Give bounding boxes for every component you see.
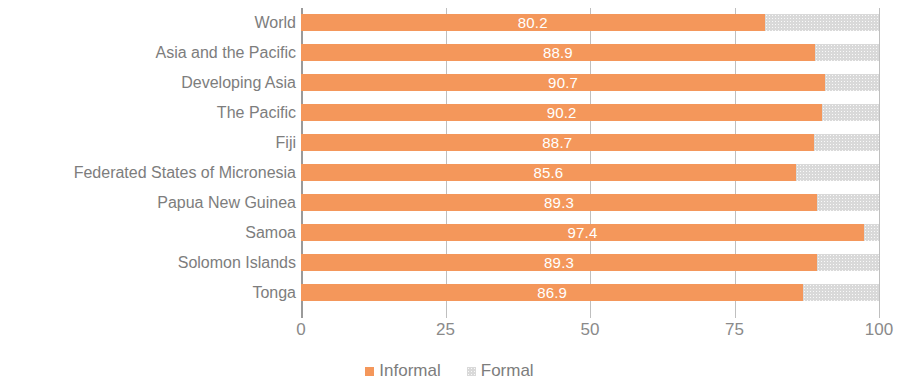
bar-row[interactable]: 90.2 — [301, 104, 879, 121]
bar-row[interactable]: 88.7 — [301, 134, 879, 151]
bar-segment-formal[interactable] — [815, 44, 879, 61]
x-tick-label: 100 — [865, 318, 893, 342]
category-label: Samoa — [6, 224, 296, 241]
category-label: Federated States of Micronesia — [6, 164, 296, 181]
bar-segment-formal[interactable] — [825, 74, 879, 91]
bar-segment-informal[interactable] — [301, 134, 814, 151]
bar-segment-formal[interactable] — [796, 164, 879, 181]
bar-row[interactable]: 86.9 — [301, 284, 879, 301]
bar-segment-formal[interactable] — [765, 14, 879, 31]
bar-segment-informal[interactable] — [301, 164, 796, 181]
category-axis-labels: WorldAsia and the PacificDeveloping Asia… — [0, 8, 296, 318]
bar-segment-informal[interactable] — [301, 284, 803, 301]
bar-segment-informal[interactable] — [301, 44, 815, 61]
plot-area: 80.288.990.790.288.785.689.397.489.386.9 — [301, 8, 879, 318]
chart-legend: InformalFormal — [0, 358, 899, 384]
category-label: The Pacific — [6, 104, 296, 121]
bar-segment-informal[interactable] — [301, 224, 864, 241]
stacked-bar-chart: WorldAsia and the PacificDeveloping Asia… — [0, 0, 899, 385]
bar-row[interactable]: 90.7 — [301, 74, 879, 91]
x-tick-label: 25 — [436, 318, 455, 342]
legend-swatch-icon — [365, 367, 374, 376]
bar-segment-formal[interactable] — [822, 104, 879, 121]
legend-label: Informal — [379, 361, 440, 381]
bar-segment-informal[interactable] — [301, 14, 765, 31]
bar-row[interactable]: 80.2 — [301, 14, 879, 31]
bar-row[interactable]: 89.3 — [301, 194, 879, 211]
bar-row[interactable]: 89.3 — [301, 254, 879, 271]
x-tick-label: 50 — [581, 318, 600, 342]
bar-segment-informal[interactable] — [301, 194, 817, 211]
legend-label: Formal — [481, 361, 534, 381]
x-tick-label: 0 — [296, 318, 305, 342]
bar-segment-formal[interactable] — [817, 194, 879, 211]
bar-row[interactable]: 97.4 — [301, 224, 879, 241]
legend-item[interactable]: Formal — [467, 361, 534, 381]
value-axis-ticks: 0255075100 — [301, 318, 879, 344]
bar-segment-informal[interactable] — [301, 254, 817, 271]
legend-item[interactable]: Informal — [365, 361, 440, 381]
bar-segment-informal[interactable] — [301, 104, 822, 121]
bar-row[interactable]: 85.6 — [301, 164, 879, 181]
category-label: Solomon Islands — [6, 254, 296, 271]
x-tick-label: 75 — [725, 318, 744, 342]
bar-segment-formal[interactable] — [803, 284, 879, 301]
bar-segment-formal[interactable] — [817, 254, 879, 271]
category-label: Fiji — [6, 134, 296, 151]
legend-swatch-icon — [467, 367, 476, 376]
bar-segment-formal[interactable] — [814, 134, 879, 151]
category-label: Asia and the Pacific — [6, 44, 296, 61]
category-label: Papua New Guinea — [6, 194, 296, 211]
bar-row[interactable]: 88.9 — [301, 44, 879, 61]
category-label: Developing Asia — [6, 74, 296, 91]
category-label: World — [6, 14, 296, 31]
category-label: Tonga — [6, 284, 296, 301]
bar-segment-formal[interactable] — [864, 224, 879, 241]
gridline-100 — [879, 8, 880, 318]
bar-segment-informal[interactable] — [301, 74, 825, 91]
